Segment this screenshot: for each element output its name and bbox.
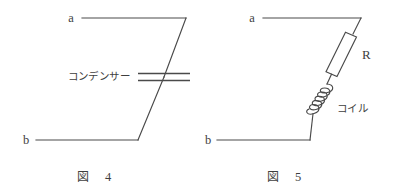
resistor-body <box>326 32 357 76</box>
coil-winding-path <box>307 84 333 114</box>
fig4-upper-diagonal-wire <box>164 18 186 77</box>
fig4-caption-number: 4 <box>105 170 112 184</box>
fig5-coil-bottom-wire <box>310 114 313 140</box>
resistor-symbol <box>326 32 357 76</box>
resistor-label: R <box>362 47 371 62</box>
fig4-terminal-b-label: b <box>23 133 29 147</box>
fig5-caption-number: 5 <box>295 170 301 184</box>
fig4-terminal-a-label: a <box>68 11 74 25</box>
fig5-resistor-coil-wire <box>327 74 332 84</box>
inductor-symbol <box>307 84 333 114</box>
capacitor-label: コンデンサー <box>68 70 130 82</box>
figure-5-group: a b R コイル 図 5 <box>205 11 371 184</box>
fig5-resistor-top-wire <box>353 18 361 34</box>
figure-4-group: a b コンデンサー 図 4 <box>23 11 190 184</box>
inductor-label: コイル <box>337 102 368 114</box>
figure-sheet: a b コンデンサー 図 4 <box>0 0 399 194</box>
fig5-caption-label: 図 <box>267 170 279 184</box>
fig4-caption: 図 4 <box>77 170 112 184</box>
fig5-terminal-b-label: b <box>205 133 211 147</box>
fig4-caption-label: 図 <box>77 170 89 184</box>
fig5-caption: 図 5 <box>267 170 301 184</box>
fig4-lower-diagonal-wire <box>138 77 164 140</box>
fig5-terminal-a-label: a <box>249 11 255 25</box>
